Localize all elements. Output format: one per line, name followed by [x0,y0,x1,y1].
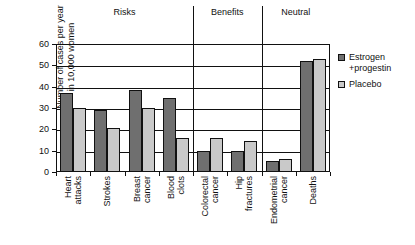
x-axis-label-slot: Endometrial cancer [262,176,296,242]
legend-swatch [338,81,345,88]
bar [279,159,292,172]
legend-item: Placebo [338,79,414,90]
y-axis-tick-mark [52,151,56,152]
y-axis-tick-label: 60 [29,40,49,49]
x-axis-label-slot: Deaths [296,176,330,242]
x-axis-label-slot: Colorectal cancer [193,176,227,242]
x-axis-label-slot: Strokes [90,176,124,242]
bar [142,108,155,172]
legend-label: Placebo [349,79,414,90]
group-divider [193,6,194,172]
bar-group [227,44,261,172]
group-label: Neutral [262,7,331,17]
x-axis-tick-label: Blood clots [166,176,186,199]
legend-swatch [338,54,345,61]
x-axis-label-slot: Hip fractures [227,176,261,242]
y-axis-tick-mark [52,65,56,66]
bar [107,128,120,172]
bar [300,61,313,172]
bar [244,141,257,172]
bar-group [159,44,193,172]
group-label: Benefits [193,7,262,17]
bar [266,161,279,172]
x-axis-tick-label: Strokes [102,176,112,207]
x-axis-label-slot: Breast cancer [125,176,159,242]
bar-group [125,44,159,172]
bar [231,151,244,172]
legend-item: Estrogen +progestin [338,52,414,74]
y-axis-tick-label: 20 [29,125,49,134]
y-axis-tick-label: 40 [29,83,49,92]
x-axis-label-slot: Heart attacks [56,176,90,242]
bar-group [296,44,330,172]
bar [210,138,223,172]
x-axis-tick-label: Deaths [308,176,318,205]
x-axis-tick-label: Breast cancer [132,176,152,203]
x-axis-label-slot: Blood clots [159,176,193,242]
group-divider [262,6,263,172]
x-axis-tick-label: Endometrial cancer [269,176,289,224]
legend-label: Estrogen +progestin [349,52,414,74]
bar [163,98,176,172]
y-axis-tick-label: 50 [29,61,49,70]
x-axis-tick-label: Colorectal cancer [200,176,220,217]
x-axis-tick-label: Heart attacks [63,176,83,205]
bar-group [56,44,90,172]
bar-group [193,44,227,172]
y-axis-tick-mark [52,87,56,88]
bar [313,59,326,172]
y-axis-tick-label: 0 [29,168,49,177]
y-axis-tick-mark [52,44,56,45]
chart-legend: Estrogen +progestinPlacebo [338,52,414,95]
x-axis-tick-label: Hip fractures [234,176,254,211]
bar-chart: Number of cases per year in 10,000 women… [0,0,415,245]
bar [129,90,142,172]
bar-group [262,44,296,172]
y-axis-tick-label: 30 [29,104,49,113]
bar [176,138,189,172]
bar [73,108,86,172]
y-axis-tick-label: 10 [29,147,49,156]
group-label: Risks [56,7,193,17]
bar [60,93,73,172]
bar [94,110,107,172]
bar-group [90,44,124,172]
y-axis-tick-mark [52,129,56,130]
x-axis-tick-mark [330,172,331,176]
y-axis-tick-mark [52,108,56,109]
bar [197,151,210,172]
